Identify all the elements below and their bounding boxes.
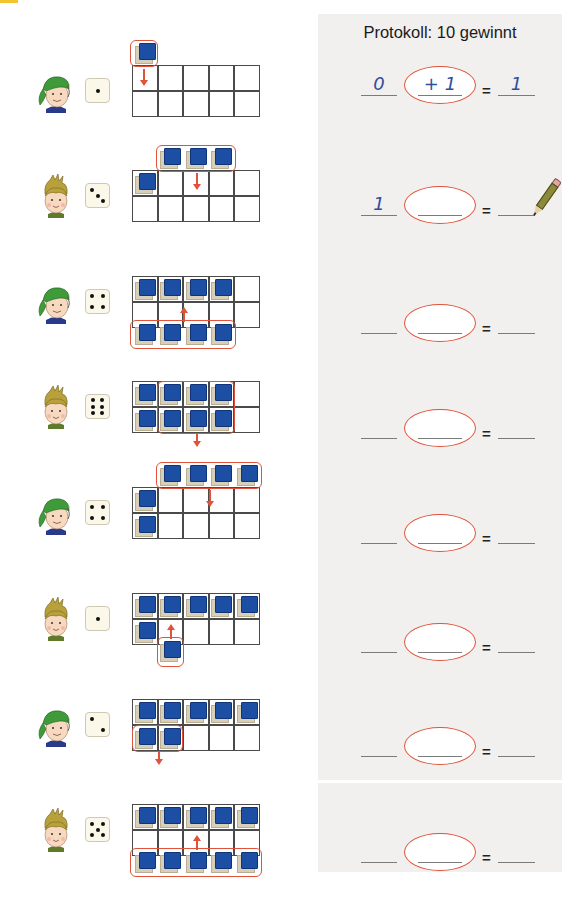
cube-face [190,279,207,296]
start-value-field[interactable] [361,333,397,335]
die-pip [100,411,104,415]
cube-face [139,490,156,507]
result-value-field[interactable] [498,438,535,440]
cube-icon [211,596,232,617]
start-handwritten-text: 0 [361,73,397,94]
start-value-field[interactable] [361,652,397,654]
start-value-field[interactable] [361,95,397,97]
change-oval [404,409,476,447]
equals-sign: = [482,743,491,760]
equation-row: =0+ 11 [318,66,562,106]
result-value-field[interactable] [498,543,535,545]
cube-icon [211,807,232,828]
cube-face [215,279,232,296]
arrow-icon [183,312,185,322]
change-value-field[interactable] [418,438,462,440]
change-oval [404,304,476,342]
ten-frame-cell [209,513,235,539]
die-pip [91,405,95,409]
ten-frame-cell [158,91,184,117]
ten-frame-cell [234,170,260,196]
equation-row: = [318,833,562,873]
cube-face [164,702,181,719]
equals-sign: = [482,639,491,656]
cube-face [139,807,156,824]
die-pip [91,398,95,402]
highlight-group [130,320,236,349]
arrow-icon [196,434,198,442]
change-oval [404,514,476,552]
ten-frame-cell [234,725,260,751]
result-value-field[interactable] [498,215,535,217]
change-value-field[interactable] [418,652,462,654]
change-value-field[interactable] [418,756,462,758]
arrow-icon [209,490,211,502]
start-value-field[interactable] [361,543,397,545]
ten-frame-cell [158,196,184,222]
panel-divider [318,780,562,783]
ten-frame-cell [183,725,209,751]
change-value-field[interactable] [418,95,462,97]
die-pip [90,717,94,721]
ten-frame-cell [234,381,260,407]
die-pip [101,728,105,732]
cube-icon [211,702,232,723]
cube-face [190,702,207,719]
boy-avatar-icon [34,280,78,324]
start-handwritten-text: 1 [361,193,397,214]
cube-icon [135,702,156,723]
die-pip [96,89,100,93]
cube-icon [160,279,181,300]
cube-face [215,807,232,824]
die-pip [101,833,105,837]
equation-row: = [318,623,562,663]
cube-icon [186,596,207,617]
die-pip [101,305,105,309]
ten-frame [132,487,260,539]
change-oval [404,623,476,661]
change-value-field[interactable] [418,543,462,545]
boy-avatar-icon [34,491,78,535]
cube-icon [160,702,181,723]
die-pip [90,833,94,837]
arrow-icon [196,840,198,850]
result-value-field[interactable] [498,652,535,654]
cube-face [139,702,156,719]
cube-icon [186,807,207,828]
change-handwritten-text: + 1 [418,73,462,94]
change-value-field[interactable] [418,862,462,864]
result-value-field[interactable] [498,333,535,335]
cube-face [241,596,258,613]
highlight-group [156,145,237,172]
die-icon [85,289,110,314]
ten-frame-cell [183,513,209,539]
start-value-field[interactable] [361,438,397,440]
ten-frame-cell [234,302,260,328]
pencil-body [536,183,559,211]
die-pip [90,305,94,309]
ten-frame-cell [132,91,158,117]
ten-frame-cell [234,196,260,222]
result-value-field[interactable] [498,756,535,758]
start-value-field[interactable] [361,756,397,758]
die-icon [85,817,110,842]
boy-avatar-icon [34,69,78,113]
result-value-field[interactable] [498,95,535,97]
change-value-field[interactable] [418,215,462,217]
cube-face [139,384,156,401]
cube-icon [135,596,156,617]
cube-face [164,596,181,613]
ten-frame-cell [183,487,209,513]
change-oval [404,833,476,871]
ten-frame-cell [183,65,209,91]
die-pip [90,505,94,509]
start-value-field[interactable] [361,862,397,864]
cube-icon [135,410,156,431]
ten-frame-cell [234,619,260,645]
start-value-field[interactable] [361,215,397,217]
change-value-field[interactable] [418,333,462,335]
result-value-field[interactable] [498,862,535,864]
die-icon [85,394,110,419]
cube-icon [211,279,232,300]
pencil-icon [528,177,563,220]
